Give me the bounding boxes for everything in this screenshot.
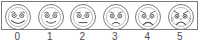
face-crying-icon	[167, 3, 195, 31]
face-option-5[interactable]	[165, 2, 198, 31]
face-option-4[interactable]	[132, 2, 165, 31]
scale-tick-labels: 0 1 2 3 4 5	[1, 30, 198, 43]
tick-label-4: 4	[131, 30, 164, 43]
tick-label-3: 3	[99, 30, 132, 43]
faces-pain-rating-scale: 0 1 2 3 4 5	[0, 0, 201, 43]
face-option-2[interactable]	[67, 2, 100, 31]
tick-label-1: 1	[34, 30, 67, 43]
faces-frame	[1, 1, 198, 30]
tick-label-0: 0	[1, 30, 34, 43]
face-slight-smile-icon	[37, 3, 65, 31]
face-slight-frown-icon	[102, 3, 130, 31]
face-option-3[interactable]	[100, 2, 133, 31]
tick-label-2: 2	[66, 30, 99, 43]
face-option-1[interactable]	[35, 2, 68, 31]
face-neutral-icon	[69, 3, 97, 31]
face-frowning-icon	[134, 3, 162, 31]
face-option-0[interactable]	[2, 2, 35, 31]
tick-label-5: 5	[164, 30, 197, 43]
face-smiling-icon	[4, 3, 32, 31]
